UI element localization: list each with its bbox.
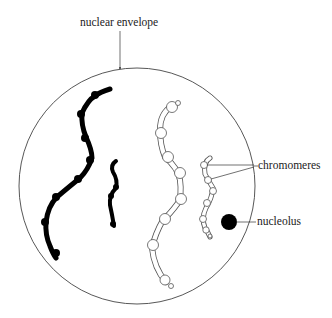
label-chromomeres: chromomeres — [258, 159, 321, 171]
nuclear-envelope — [19, 68, 255, 304]
chromosome-condensed-long — [41, 89, 110, 258]
nucleolus — [221, 214, 237, 230]
label-nuclear-envelope: nuclear envelope — [80, 16, 158, 29]
chromosome-outline-short — [200, 158, 217, 238]
chromosome-condensed-short — [108, 161, 119, 227]
chromosome-outline-long — [148, 101, 187, 289]
nucleus-diagram: nuclear envelope — [0, 0, 332, 318]
leader-chromomeres — [207, 165, 258, 179]
label-nucleolus: nucleolus — [257, 215, 302, 227]
leader-dot-nuclear-envelope — [119, 67, 121, 69]
